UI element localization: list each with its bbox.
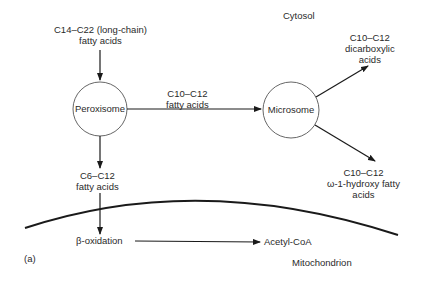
beta-oxidation-label: β-oxidation	[76, 235, 123, 246]
arrow-microsome-to-dicarboxylic	[316, 66, 368, 97]
hydroxy-fatty-acids-label: C10–C12 ω-1-hydroxy fatty acids	[327, 167, 400, 200]
long-chain-fatty-acids-label: C14–C22 (long-chain) fatty acids	[54, 24, 147, 46]
compartment-mitochondrion-label: Mitochondrion	[292, 257, 352, 268]
dicarboxylic-line2: dicarboxylic	[345, 43, 395, 54]
dicarboxylic-line1: C10–C12	[345, 32, 395, 43]
arrow-betaox-to-acetylcoa	[135, 241, 260, 242]
panel-label: (a)	[24, 253, 36, 264]
c10-c12-line1: C10–C12	[166, 88, 209, 99]
c6-c12-line1: C6–C12	[76, 170, 119, 181]
long-chain-line1: C14–C22 (long-chain)	[54, 24, 147, 35]
hydroxy-line3: acids	[327, 189, 400, 200]
mitochondrial-membrane	[25, 201, 398, 235]
long-chain-line2: fatty acids	[54, 35, 147, 46]
hydroxy-line2: ω-1-hydroxy fatty	[327, 178, 400, 189]
c10-c12-line2: fatty acids	[166, 99, 209, 110]
dicarboxylic-line3: acids	[345, 54, 395, 65]
hydroxy-line1: C10–C12	[327, 167, 400, 178]
microsome-label: Microsome	[265, 104, 317, 115]
c6-c12-line2: fatty acids	[76, 181, 119, 192]
peroxisome-label: Peroxisome	[74, 103, 126, 114]
dicarboxylic-acids-label: C10–C12 dicarboxylic acids	[345, 32, 395, 65]
acetyl-coa-label: Acetyl-CoA	[264, 236, 312, 247]
arrow-microsome-to-hydroxy	[315, 125, 375, 161]
compartment-cytosol-label: Cytosol	[283, 10, 315, 21]
c10-c12-fatty-acids-label: C10–C12 fatty acids	[166, 88, 209, 110]
c6-c12-fatty-acids-label: C6–C12 fatty acids	[76, 170, 119, 192]
